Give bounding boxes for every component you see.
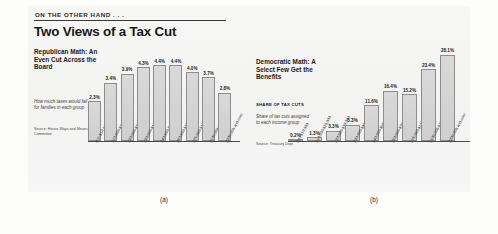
bar-value-label: 15.2% — [403, 88, 416, 93]
bar-group: 4.4%$50,000-$75,000 — [169, 55, 182, 141]
bar-group: 16.4%$50,000-$75,000 — [383, 49, 398, 141]
figure-label-a: (a) — [160, 196, 168, 203]
page-title: Two Views of a Tax Cut — [34, 24, 176, 39]
bar-group: 4.0%$75,000-$100,000 — [186, 55, 199, 141]
bar-value-label: 23.4% — [422, 63, 435, 68]
right-panel-source: Source: Treasury Dept. — [256, 142, 314, 147]
democratic-bar-chart: 0.2%0 to $10,0001.3%$10,000-$20,0003.3%$… — [288, 44, 470, 142]
bar-value-label: 3.9% — [122, 67, 132, 72]
left-panel-caption: How much taxes would fall for families i… — [34, 99, 92, 110]
bar-group: 23.4%$100,000-$200,000 — [421, 49, 436, 141]
bar-group: 4.4%$40,000-$50,000 — [153, 55, 166, 141]
bar-value-label: 3.7% — [203, 71, 213, 76]
bar-value-label: 3.4% — [106, 76, 116, 81]
bar-group: 2.3%0 to $10,000 — [88, 55, 101, 141]
figure-page: ON THE OTHER HAND . . . Two Views of a T… — [0, 0, 498, 234]
left-panel-source: Source: House Ways and Means Committee — [34, 127, 92, 136]
bar-group: 1.3%$10,000-$20,000 — [307, 49, 322, 141]
bar-value-label: 3.3% — [328, 124, 338, 129]
bar-value-label: 4.4% — [171, 59, 181, 64]
bar-value-label: 4.0% — [187, 66, 197, 71]
bar-value-label: 28.1% — [441, 48, 454, 53]
header-rule — [34, 20, 226, 21]
bar-group: 3.7%$100,000-$200,000 — [202, 55, 215, 141]
bar-group: 2.8%$200,000 and over — [218, 55, 231, 141]
bar-group: 15.2%$75,000-$100,000 — [402, 49, 417, 141]
bar-value-label: 11.6% — [365, 99, 378, 104]
bar-group: 3.4%$10,000-$20,000 — [104, 55, 117, 141]
bar-group: 28.1%$200,000 and over — [440, 49, 455, 141]
bar-value-label: 5.3% — [347, 118, 357, 123]
bar-group: 3.3%$20,000-$30,000 — [326, 49, 341, 141]
bar-group: 11.6%$40,000-$50,000 — [364, 49, 379, 141]
bar-group: 4.3%$30,000-$40,000 — [137, 55, 150, 141]
bar-value-label: 2.3% — [89, 95, 99, 100]
bar-value-label: 16.4% — [384, 84, 397, 89]
figure-label-b: (b) — [370, 196, 378, 203]
bar-group: 5.3%$30,000-$40,000 — [345, 49, 360, 141]
bar-group: 0.2%0 to $10,000 — [288, 49, 303, 141]
bar-group: 3.9%$20,000-$30,000 — [121, 55, 134, 141]
kicker-text: ON THE OTHER HAND . . . — [35, 11, 124, 18]
bar-value-label: 4.4% — [154, 59, 164, 64]
bar-value-label: 4.3% — [138, 61, 148, 66]
bar-value-label: 2.8% — [220, 86, 230, 91]
republican-bar-chart: 2.3%0 to $10,0003.4%$10,000-$20,0003.9%$… — [88, 50, 240, 142]
